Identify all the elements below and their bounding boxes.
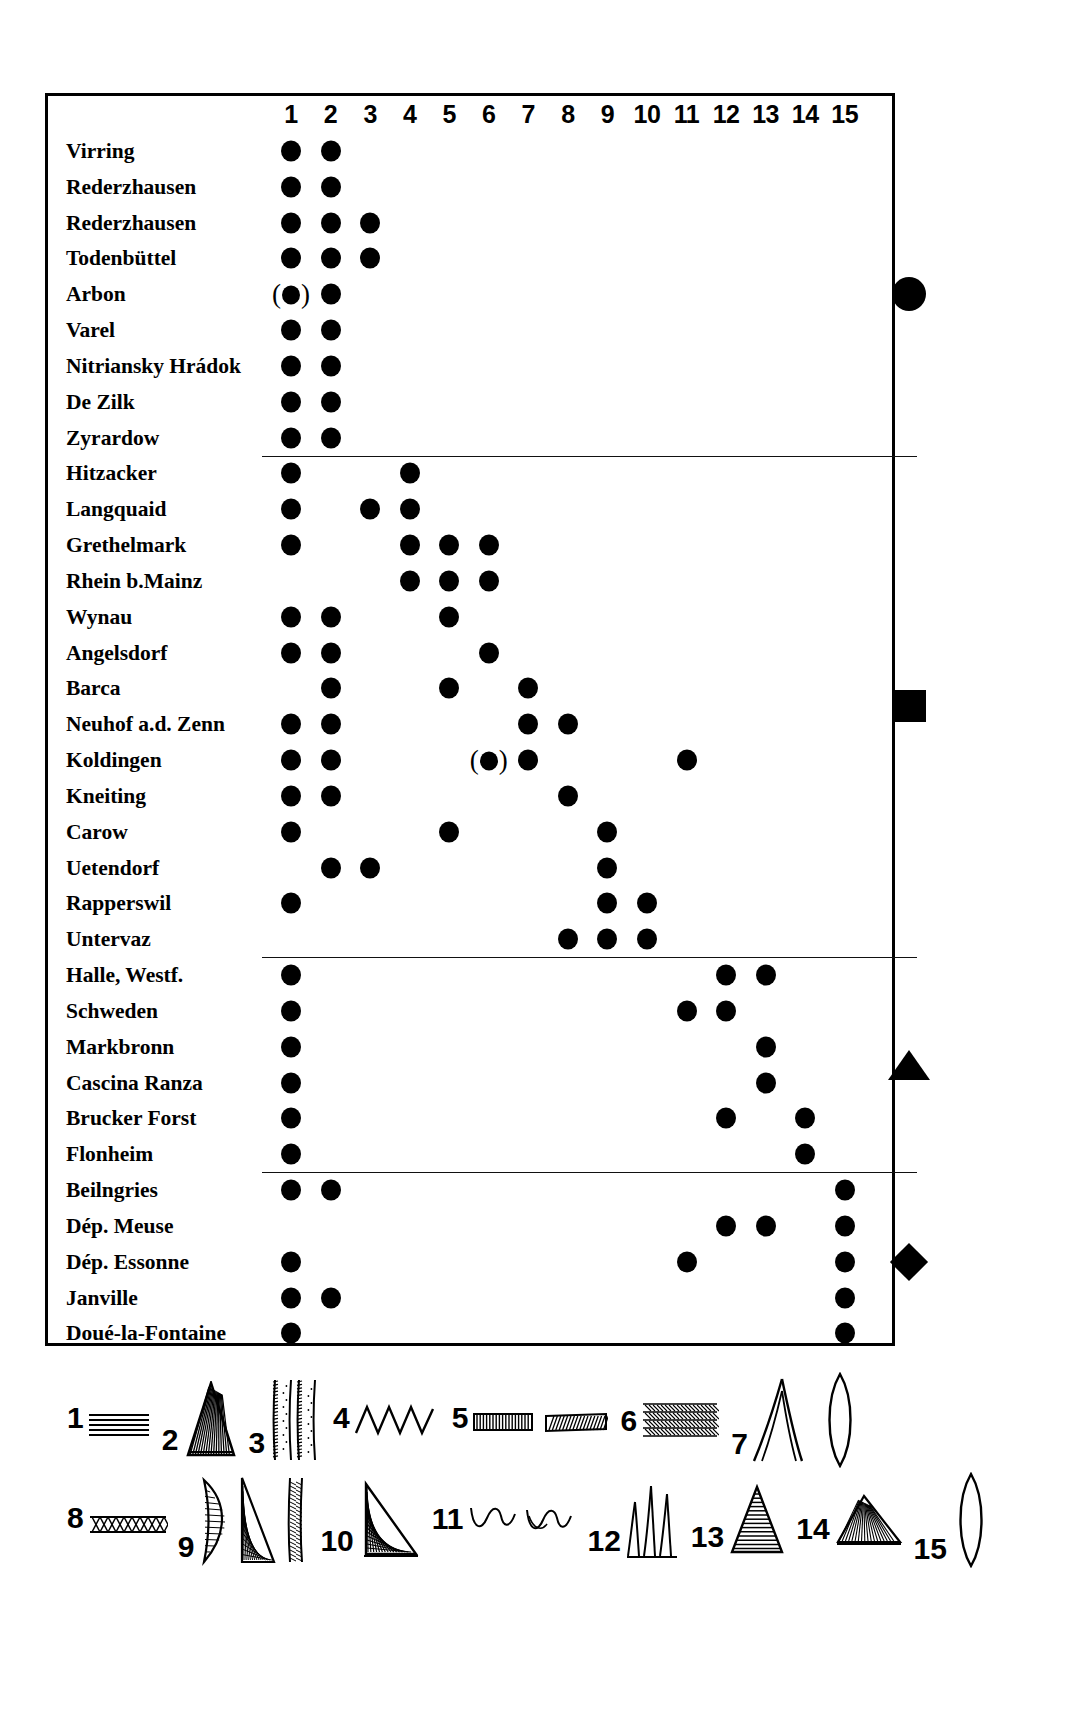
- column-header-8: 8: [561, 100, 574, 129]
- matrix-dot: [400, 463, 420, 484]
- matrix-dot: [281, 965, 301, 986]
- matrix-dot: [439, 821, 459, 842]
- legend-symbol-leaf-and-triangle-group-icon: [198, 1474, 310, 1566]
- legend-number: 1: [67, 1403, 84, 1437]
- legend-symbol-wavy-arcs-pair-icon: [467, 1502, 577, 1538]
- matrix-dot: [321, 212, 341, 233]
- legend-symbol-herringbone-band-icon: [641, 1400, 719, 1440]
- matrix-dot: [321, 785, 341, 806]
- matrix-dot: [795, 1144, 815, 1165]
- matrix-dot: [677, 1251, 697, 1272]
- row-label: Cascina Ranza: [66, 1070, 203, 1095]
- row-label: Varel: [66, 318, 115, 343]
- matrix-dot: [321, 284, 341, 305]
- legend-symbol-horizontal-lines-icon: [88, 1411, 150, 1437]
- column-header-11: 11: [674, 100, 699, 129]
- column-header-6: 6: [482, 100, 495, 129]
- legend-item-12: 12: [587, 1480, 680, 1560]
- row-label: Uetendorf: [66, 855, 159, 880]
- row-label: Dép. Meuse: [66, 1213, 173, 1238]
- group-marker-diamond: [890, 1243, 928, 1281]
- matrix-dot-uncertain: (): [470, 747, 508, 774]
- row-label: Todenbüttel: [66, 246, 176, 271]
- row-label: Grethelmark: [66, 533, 186, 558]
- matrix-dot: [281, 427, 301, 448]
- matrix-dot: [281, 1000, 301, 1021]
- matrix-dot: [281, 463, 301, 484]
- legend-number: 14: [796, 1514, 829, 1548]
- legend-symbol-lattice-band-icon: [88, 1511, 168, 1537]
- row-label: Markbronn: [66, 1034, 174, 1059]
- legend-number: 5: [452, 1403, 469, 1437]
- matrix-dot: [716, 1108, 736, 1129]
- legend-symbol-hatched-triangle-tall-icon: [182, 1381, 236, 1459]
- row-label: Virring: [66, 139, 134, 164]
- row-label: Schweden: [66, 998, 158, 1023]
- matrix-dot: [321, 391, 341, 412]
- matrix-dot: [281, 785, 301, 806]
- matrix-dot: [281, 320, 301, 341]
- matrix-dot: [281, 642, 301, 663]
- legend-symbol-double-stippled-band-icon: [269, 1378, 321, 1462]
- matrix-dot: [518, 714, 538, 735]
- matrix-dot: [439, 678, 459, 699]
- row-label: Rederzhausen: [66, 210, 196, 235]
- matrix-dot: [756, 1036, 776, 1057]
- matrix-dot: [400, 570, 420, 591]
- matrix-dot: [321, 176, 341, 197]
- matrix-dot: [321, 427, 341, 448]
- matrix-dot: [321, 320, 341, 341]
- legend-item-14: 14: [796, 1492, 903, 1548]
- matrix-dot: [321, 1287, 341, 1308]
- matrix-dot: [281, 176, 301, 197]
- matrix-dot: [360, 499, 380, 520]
- matrix-dot: [281, 893, 301, 914]
- row-label: De Zilk: [66, 389, 135, 414]
- matrix-dot: [281, 391, 301, 412]
- legend-number: 12: [587, 1526, 620, 1560]
- matrix-dot: [597, 857, 617, 878]
- row-label: Flonheim: [66, 1142, 153, 1167]
- legend-item-5: 5: [452, 1403, 609, 1437]
- row-label: Rhein b.Mainz: [66, 568, 202, 593]
- row-label: Carow: [66, 819, 128, 844]
- matrix-dot: [518, 678, 538, 699]
- matrix-dot: [558, 929, 578, 950]
- legend-item-10: 10: [320, 1480, 421, 1560]
- legend-row-2: 89101112131415: [45, 1470, 1047, 1570]
- row-label: Langquaid: [66, 497, 166, 522]
- legend-item-2: 2: [162, 1381, 237, 1459]
- matrix-dot: [597, 893, 617, 914]
- matrix-dot: [637, 893, 657, 914]
- row-label: Rederzhausen: [66, 174, 196, 199]
- matrix-dot: [360, 248, 380, 269]
- legend-item-1: 1: [67, 1403, 150, 1437]
- legend-item-7: 7: [731, 1377, 808, 1463]
- legend-number: 6: [620, 1406, 637, 1440]
- matrix-dot: [835, 1180, 855, 1201]
- legend-item-8: 8: [67, 1503, 168, 1537]
- row-label: Wynau: [66, 604, 132, 629]
- matrix-dot: [479, 570, 499, 591]
- matrix-dot: [321, 714, 341, 735]
- matrix-dot: [321, 1180, 341, 1201]
- column-header-5: 5: [442, 100, 455, 129]
- row-label: Barca: [66, 676, 121, 701]
- legend-symbol-triple-spike-icon: [625, 1480, 681, 1560]
- matrix-dot: [439, 570, 459, 591]
- matrix-dot: [597, 929, 617, 950]
- row-label: Untervaz: [66, 927, 151, 952]
- matrix-dot: [281, 1072, 301, 1093]
- matrix-dot: [281, 821, 301, 842]
- seriation-chart: 123456789101112131415 VirringRederzhause…: [0, 0, 1068, 1713]
- matrix-dot: [835, 1215, 855, 1236]
- matrix-dot: [756, 965, 776, 986]
- matrix-dot: [281, 1144, 301, 1165]
- row-label: Halle, Westf.: [66, 963, 183, 988]
- matrix-dot: [321, 248, 341, 269]
- legend-number: 11: [432, 1504, 464, 1538]
- matrix-dot: [716, 965, 736, 986]
- column-header-12: 12: [713, 100, 740, 129]
- legend-item-4: 4: [333, 1403, 440, 1437]
- matrix-dot: [281, 248, 301, 269]
